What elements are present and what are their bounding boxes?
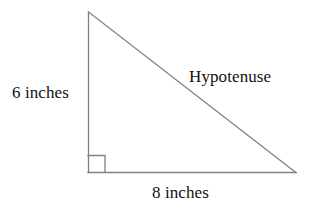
right-triangle-figure xyxy=(0,0,316,206)
right-angle-marker-icon xyxy=(88,156,105,173)
hypotenuse-label: Hypotenuse xyxy=(189,68,271,85)
horizontal-leg-label: 8 inches xyxy=(152,184,209,201)
triangle-diagram-canvas: 6 inches Hypotenuse 8 inches xyxy=(0,0,316,206)
hypotenuse-line xyxy=(89,12,297,173)
vertical-leg-label: 6 inches xyxy=(12,84,69,101)
